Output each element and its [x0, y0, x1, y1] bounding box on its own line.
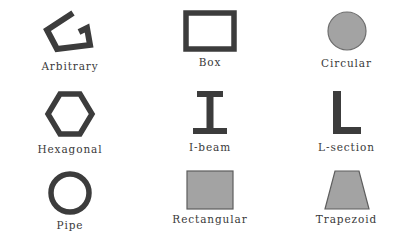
- shape-label-l-section: L-section: [318, 141, 375, 153]
- shape-label-pipe: Pipe: [57, 219, 84, 231]
- i-beam-shape-icon: [190, 90, 230, 136]
- hexagonal-shape-icon: [44, 90, 96, 138]
- arbitrary-shape-icon: [35, 10, 105, 56]
- shape-cell-pipe: Pipe: [0, 170, 140, 240]
- shape-cell-arbitrary: Arbitrary: [0, 10, 140, 82]
- shape-label-arbitrary: Arbitrary: [41, 60, 98, 72]
- shape-cell-hexagonal: Hexagonal: [0, 90, 140, 162]
- shape-label-rectangular: Rectangular: [172, 213, 247, 225]
- pipe-shape-icon: [47, 170, 93, 216]
- shape-label-hexagonal: Hexagonal: [37, 143, 102, 155]
- box-shape-icon: [183, 10, 237, 52]
- shape-cell-trapezoid: Trapezoid: [280, 170, 413, 240]
- shape-label-box: Box: [199, 56, 222, 68]
- shape-label-trapezoid: Trapezoid: [316, 213, 377, 225]
- shape-cell-box: Box: [140, 10, 280, 82]
- shape-cell-l-section: L-section: [280, 90, 413, 162]
- shape-gallery: Arbitrary Box Circular Hexagonal: [0, 0, 413, 243]
- rectangular-shape-icon: [186, 170, 234, 210]
- l-section-shape-icon: [330, 90, 364, 136]
- shape-cell-i-beam: I-beam: [140, 90, 280, 162]
- circular-shape-icon: [326, 10, 368, 52]
- shape-label-i-beam: I-beam: [189, 141, 231, 153]
- trapezoid-shape-icon: [323, 170, 371, 210]
- shape-cell-circular: Circular: [280, 10, 413, 82]
- shape-label-circular: Circular: [321, 57, 372, 69]
- shape-cell-rectangular: Rectangular: [140, 170, 280, 240]
